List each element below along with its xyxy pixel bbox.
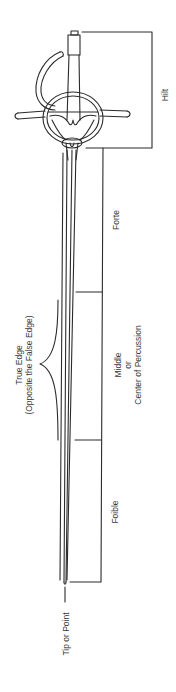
middle-label-line-1: Middle (113, 325, 123, 404)
tip-label: Tip or Point (61, 612, 71, 655)
ring-guard (43, 92, 103, 144)
true-edge-label: True Edge (Opposite the False Edge) (14, 315, 34, 414)
true-edge-brace (40, 300, 58, 440)
middle-label: Middle or Center of Percussion (113, 325, 143, 404)
middle-label-line-3: Center of Percussion (133, 325, 143, 404)
tip-label-text: Tip or Point (61, 612, 71, 655)
middle-label-line-2: or (123, 325, 133, 404)
foible-label-text: Foible (110, 500, 120, 523)
forte-label: Forte (111, 210, 121, 230)
pommel (68, 31, 80, 55)
true-edge-label-line-1: True Edge (14, 315, 24, 414)
grip (67, 55, 80, 120)
blade (60, 150, 76, 584)
hilt-label: Hilt (160, 89, 170, 101)
hilt-bracket (82, 32, 152, 148)
foible-label: Foible (110, 500, 120, 523)
true-edge-label-line-2: (Opposite the False Edge) (24, 315, 34, 414)
forte-label-text: Forte (111, 210, 121, 230)
quillons (15, 110, 130, 119)
hilt-label-text: Hilt (160, 89, 170, 101)
